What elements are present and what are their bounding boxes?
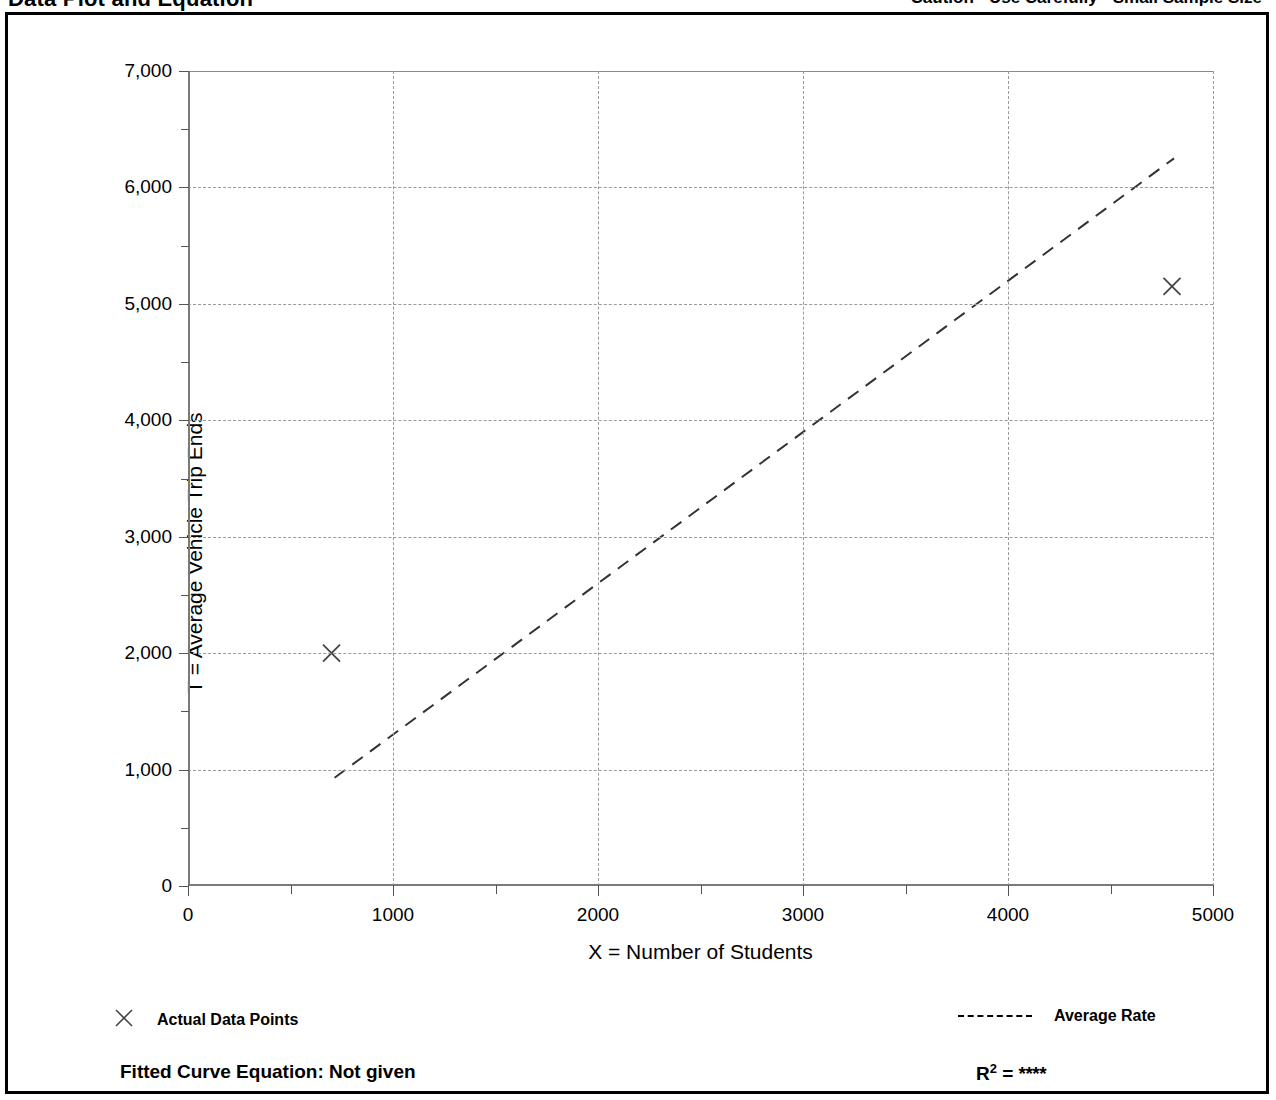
- legend-label-actual-data-points: Actual Data Points: [157, 1011, 298, 1029]
- y-axis-tick: [179, 653, 189, 654]
- y-axis-tick-label: 0: [161, 875, 172, 897]
- x-axis-title: X = Number of Students: [188, 940, 1213, 964]
- x-axis-minor-tick: [701, 885, 702, 894]
- series-layer: [188, 71, 1213, 886]
- data-point-x-marker: [1164, 278, 1181, 295]
- y-axis-minor-tick: [181, 129, 189, 130]
- gridline-vertical: [803, 71, 804, 886]
- gridline-vertical: [1008, 71, 1009, 886]
- x-axis-tick-label: 1000: [372, 904, 414, 926]
- y-axis-tick: [179, 537, 189, 538]
- y-axis-tick-label: 4,000: [124, 409, 172, 431]
- plot-canvas: 01,0002,0003,0004,0005,0006,0007,0000100…: [188, 71, 1213, 886]
- gridline-horizontal: [188, 653, 1213, 654]
- caution-note: Caution - Use Carefully - Small Sample S…: [911, 0, 1262, 8]
- y-axis-tick: [179, 71, 189, 72]
- gridline-horizontal: [188, 537, 1213, 538]
- r-squared-label: R: [976, 1063, 990, 1084]
- r-squared-exponent: 2: [990, 1061, 997, 1076]
- gridline-vertical: [598, 71, 599, 886]
- y-axis-minor-tick: [181, 479, 189, 480]
- y-axis-tick-label: 7,000: [124, 60, 172, 82]
- x-axis-tick: [803, 885, 804, 896]
- y-axis-tick-label: 1,000: [124, 759, 172, 781]
- dashed-line-icon: [958, 1015, 1032, 1017]
- legend-label-average-rate: Average Rate: [1054, 1007, 1156, 1025]
- x-axis-tick-label: 5000: [1192, 904, 1234, 926]
- x-axis-tick-label: 3000: [782, 904, 824, 926]
- gridline-horizontal: [188, 770, 1213, 771]
- legend-actual-data-points: Actual Data Points: [113, 1007, 298, 1033]
- y-axis-minor-tick: [181, 595, 189, 596]
- y-axis-tick: [179, 420, 189, 421]
- x-axis-tick: [188, 885, 189, 896]
- y-axis-tick: [179, 187, 189, 188]
- average-rate-line: [335, 158, 1174, 777]
- x-marker-icon: [113, 1007, 135, 1033]
- y-axis-tick-label: 3,000: [124, 526, 172, 548]
- gridline-horizontal: [188, 187, 1213, 188]
- gridline-vertical: [393, 71, 394, 886]
- x-axis-minor-tick: [291, 885, 292, 894]
- r-squared-stars: ****: [1019, 1063, 1047, 1084]
- y-axis-minor-tick: [181, 246, 189, 247]
- x-axis-tick-label: 0: [183, 904, 194, 926]
- x-axis-minor-tick: [1111, 885, 1112, 894]
- x-axis-tick: [393, 885, 394, 896]
- x-axis-minor-tick: [906, 885, 907, 894]
- x-axis-tick: [598, 885, 599, 896]
- y-axis-tick-label: 5,000: [124, 293, 172, 315]
- gridline-horizontal: [188, 304, 1213, 305]
- chart-page: Data Plot and Equation Caution - Use Car…: [0, 0, 1276, 1100]
- x-axis-tick: [1213, 885, 1214, 896]
- y-axis-tick-label: 6,000: [124, 176, 172, 198]
- fitted-curve-equation: Fitted Curve Equation: Not given: [120, 1061, 416, 1083]
- y-axis-minor-tick: [181, 362, 189, 363]
- y-axis-minor-tick: [181, 828, 189, 829]
- x-axis-minor-tick: [496, 885, 497, 894]
- chart-frame: T = Average Vehicle Trip Ends X = Number…: [5, 12, 1269, 1094]
- y-axis-minor-tick: [181, 711, 189, 712]
- gridline-vertical: [1213, 71, 1214, 886]
- legend-average-rate: Average Rate: [958, 1007, 1156, 1025]
- x-axis-tick: [1008, 885, 1009, 896]
- r-squared-value: R2 = ****: [976, 1061, 1046, 1085]
- plot-area: 01,0002,0003,0004,0005,0006,0007,0000100…: [188, 71, 1213, 886]
- x-axis-tick-label: 4000: [987, 904, 1029, 926]
- page-title: Data Plot and Equation: [8, 0, 253, 12]
- y-axis-tick-label: 2,000: [124, 642, 172, 664]
- x-axis-tick-label: 2000: [577, 904, 619, 926]
- y-axis-tick: [179, 304, 189, 305]
- r-squared-equals: =: [997, 1063, 1019, 1084]
- gridline-horizontal: [188, 420, 1213, 421]
- y-axis-tick: [179, 770, 189, 771]
